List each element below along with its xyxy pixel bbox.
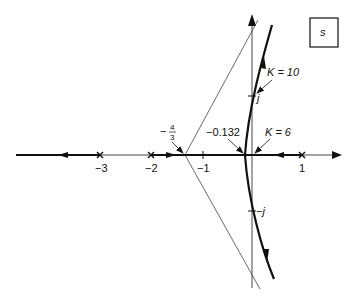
centroid-annotation: − 4 3 (160, 123, 183, 153)
root-locus-diagram: −3 −2 −1 1 j −j − 4 3 −0.132 K = 6 K = 1… (0, 0, 356, 304)
k6-label: K = 6 (265, 126, 292, 138)
complex-locus-branch (245, 25, 274, 279)
centroid-sign: − (160, 125, 166, 137)
label-neg-j: −j (256, 205, 265, 217)
k6-annotation: K = 6 (255, 126, 292, 153)
imag-axis-arrow-icon (248, 14, 256, 26)
s-plane-box: s (310, 18, 338, 47)
breakaway-annotation: −0.132 (206, 126, 243, 153)
locus-arrow-left-icon (274, 152, 284, 158)
label-minus-1: −1 (197, 162, 210, 174)
locus-arrow-left-icon (58, 152, 68, 158)
label-minus-2: −2 (145, 162, 158, 174)
label-j: j (255, 92, 260, 104)
real-axis-arrow-icon (332, 151, 342, 159)
label-minus-3: −3 (95, 162, 108, 174)
centroid-denominator: 3 (170, 133, 175, 142)
k10-annotation: K = 10 (257, 66, 300, 93)
label-plus-1: 1 (299, 162, 305, 174)
centroid-numerator: 4 (170, 123, 175, 132)
real-axis-locus (16, 152, 302, 158)
breakaway-label: −0.132 (206, 126, 240, 138)
k10-label: K = 10 (267, 66, 300, 78)
locus-arrow-right-icon (166, 152, 176, 158)
s-plane-label: s (320, 26, 326, 38)
imag-axis (248, 14, 256, 288)
